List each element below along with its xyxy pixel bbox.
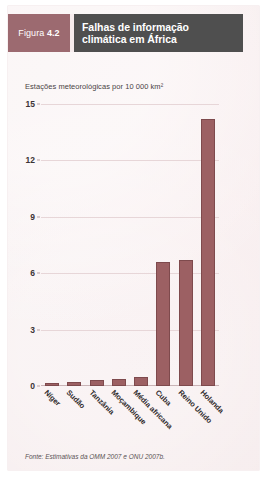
- y-axis-tick-label: 12: [26, 155, 35, 165]
- figure-title-box: Falhas de informação climática em África: [74, 14, 243, 52]
- y-axis-tick-label: 15: [26, 99, 35, 109]
- x-axis-category-label: Níger: [43, 388, 63, 408]
- bar: [112, 379, 126, 386]
- y-axis-tick-label: 3: [30, 325, 35, 335]
- x-axis-category-label: Cuba: [154, 388, 173, 407]
- figure-label-prefix: Figura: [18, 28, 44, 38]
- y-axis-tick-label: 9: [30, 212, 35, 222]
- x-axis-category-label: Sudão: [65, 388, 87, 410]
- y-axis-tick-mark: [37, 386, 40, 387]
- bar: [201, 119, 215, 386]
- chart-subtitle: Estações meteorológicas por 10 000 km²: [25, 82, 163, 91]
- bar: [90, 380, 104, 386]
- y-axis-tick-label: 6: [30, 268, 35, 278]
- y-axis-tick-mark: [37, 160, 40, 161]
- bars-group: [41, 104, 219, 386]
- bar: [67, 382, 81, 386]
- figure-number-box: Figura 4.2: [8, 14, 70, 52]
- bar: [45, 383, 59, 386]
- y-axis-tick-mark: [37, 329, 40, 330]
- y-axis-tick-mark: [37, 273, 40, 274]
- y-axis-tick-mark: [37, 104, 40, 105]
- bar: [134, 377, 148, 386]
- figure-number: 4.2: [47, 28, 60, 38]
- bar: [179, 260, 193, 386]
- plot-area: 03691215: [41, 104, 219, 386]
- bar: [156, 262, 170, 386]
- source-note: Fonte: Estimativas da OMM 2007 e ONU 200…: [25, 453, 165, 460]
- y-axis-tick-label: 0: [30, 381, 35, 391]
- figure-title: Falhas de informação climática em África: [82, 21, 235, 46]
- y-axis-tick-mark: [37, 216, 40, 217]
- figure-header-band: Figura 4.2 Falhas de informação climátic…: [8, 14, 243, 52]
- x-axis-category-labels: NígerSudãoTanzâniaMoçambiqueMédia africa…: [41, 388, 241, 446]
